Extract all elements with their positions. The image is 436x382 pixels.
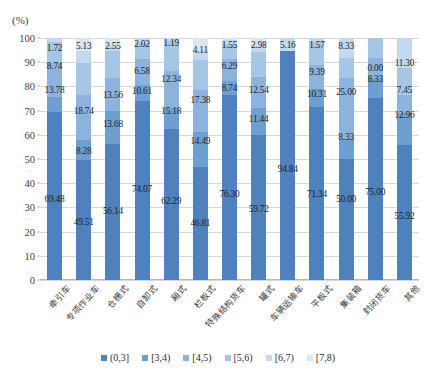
bar-segment[interactable] [47,97,62,112]
y-axis-tick-label: 60 [25,129,36,140]
y-axis-tick-label: 50 [25,154,36,165]
plot-area: 0102030405060708090100 1.728.7413.7869.4… [40,38,419,280]
bar-value-label: 25.00 [336,87,356,97]
bar-value-label: 69.48 [45,194,65,204]
bar-value-label: 56.14 [103,206,123,216]
bar-segment[interactable] [193,60,208,89]
bar-value-label: 4.11 [193,45,208,55]
bar-value-label: 2.55 [105,41,120,51]
bar-value-label: 11.44 [249,114,269,124]
bar-value-label: 8.74 [47,61,62,71]
y-axis-unit-label: (%) [12,14,29,26]
bar-value-label: 55.92 [394,211,414,221]
bar-segment[interactable] [368,38,383,58]
y-axis-tick-label: 10 [25,250,36,261]
bar-segment[interactable] [339,58,354,78]
bar-value-label: 8.28 [76,146,91,156]
y-axis-tick-label: 0 [30,275,35,286]
bar-value-label: 9.39 [309,67,324,77]
legend-label: [4,5) [192,352,211,363]
chart-container: (%) 0102030405060708090100 1.728.7413.78… [0,0,436,382]
x-axis-category-label: 牵引车 [45,282,72,310]
legend-item[interactable]: [4,5) [183,352,211,363]
bar-segment[interactable] [222,95,237,280]
bar-value-label: 13.68 [103,119,123,129]
bar-value-label: 8.74 [222,83,237,93]
bar-value-label: 1.72 [47,43,62,53]
bar-value-label: 50.00 [336,194,356,204]
bar-segment[interactable] [76,51,91,63]
bar-value-label: 1.19 [163,38,178,48]
bar-value-label: 49.51 [74,217,94,227]
bar-value-label: 1.55 [222,40,237,50]
bar-value-label: 94.84 [278,164,298,174]
chart-legend: (0,3][3,4)[4,5)[5,6)[6,7)[7,8) [0,352,436,363]
bar-value-label: 1.57 [309,40,324,50]
legend-swatch-icon [183,355,189,361]
y-axis-tick-label: 90 [25,57,36,68]
x-axis-category-label: 厢式 [168,282,189,303]
bar-value-label: 8.33 [368,74,383,84]
bar-value-label: 10.61 [132,86,152,96]
bar-value-label: 13.78 [45,85,65,95]
bar-value-label: 8.33 [338,132,353,142]
bar-value-label: 74.07 [132,184,152,194]
bar-column[interactable] [47,38,62,280]
y-axis-tick-label: 30 [25,202,36,213]
legend-label: (0,3] [110,352,129,363]
bar-value-label: 6.58 [134,66,149,76]
bar-segment[interactable] [76,63,91,95]
bar-value-label: 7.45 [397,85,412,95]
legend-item[interactable]: [3,4) [142,352,170,363]
bar-value-label: 18.74 [74,106,94,116]
bar-column[interactable] [339,38,354,280]
bar-series-group [40,38,419,280]
bar-value-label: 75.00 [365,187,385,197]
bar-segment[interactable] [339,159,354,280]
bar-value-label: 17.38 [190,95,210,105]
bar-column[interactable] [193,38,208,280]
y-axis-tick-label: 20 [25,226,36,237]
legend-item[interactable]: [6,7) [266,352,294,363]
legend-label: [6,7) [275,352,294,363]
legend-label: [7,8) [316,352,335,363]
legend-swatch-icon [307,355,313,361]
bar-value-label: 0.00 [368,63,383,73]
legend-swatch-icon [142,355,148,361]
bar-value-label: 15.18 [161,106,181,116]
x-axis-category-label: 其他 [401,282,422,303]
bar-column[interactable] [397,38,412,280]
legend-swatch-icon [225,355,231,361]
bar-value-label: 59.72 [249,204,269,214]
bar-value-label: 12.34 [161,74,181,84]
legend-label: [5,6) [234,352,253,363]
bar-value-label: 8.33 [338,41,353,51]
bar-value-label: 46.81 [190,218,210,228]
bar-value-label: 76.30 [220,189,240,199]
bar-value-label: 12.96 [394,110,414,120]
bar-value-label: 2.02 [134,39,149,49]
y-axis-tick-label: 70 [25,105,36,116]
bar-value-label: 12.54 [249,85,269,95]
bar-value-label: 71.34 [307,189,327,199]
bar-segment[interactable] [76,95,91,140]
bar-column[interactable] [105,38,120,280]
bar-value-label: 6.29 [222,61,237,71]
bar-column[interactable] [280,38,295,280]
legend-item[interactable]: [5,6) [225,352,253,363]
x-axis-category-labels: 牵引车专项作业车仓栅式自卸式厢式栏板式特殊结构货车罐式车辆运输车平板式集装箱封闭… [40,282,419,344]
bar-column[interactable] [251,38,266,280]
bar-value-label: 5.16 [280,40,295,50]
bar-column[interactable] [76,38,91,280]
legend-item[interactable]: [7,8) [307,352,335,363]
y-axis-tick-label: 40 [25,178,36,189]
x-axis-category-label: 栏板式 [191,282,218,310]
bar-segment[interactable] [251,52,266,77]
legend-item[interactable]: (0,3] [101,352,129,363]
y-axis-tick-label: 80 [25,81,36,92]
bar-column[interactable] [222,38,237,280]
legend-label: [3,4) [151,352,170,363]
bar-segment[interactable] [105,51,120,78]
bar-value-label: 14.49 [190,136,210,146]
legend-swatch-icon [266,355,272,361]
